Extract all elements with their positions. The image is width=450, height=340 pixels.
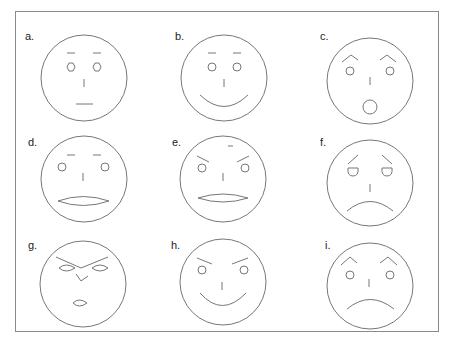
face-c xyxy=(327,38,413,124)
mouth-open-icon xyxy=(363,100,377,114)
nose-icon xyxy=(76,274,88,281)
eye-icon xyxy=(233,63,241,71)
eye-icon xyxy=(346,67,354,75)
face-outline-icon xyxy=(327,140,413,226)
brow-icon xyxy=(237,156,249,162)
eye-lens-icon xyxy=(59,265,75,271)
eye-icon xyxy=(241,164,249,172)
face-a xyxy=(41,35,127,121)
face-h xyxy=(180,239,266,325)
eye-icon xyxy=(386,271,394,279)
face-outline-icon xyxy=(41,136,127,222)
brow-v-icon xyxy=(56,257,108,268)
eye-icon xyxy=(101,163,109,171)
eye-icon xyxy=(346,271,354,279)
face-e xyxy=(180,136,266,222)
face-d xyxy=(41,136,127,222)
faces-diagram xyxy=(0,0,450,340)
eye-icon xyxy=(198,164,206,172)
eye-icon xyxy=(93,63,101,71)
face-i xyxy=(327,243,413,329)
mouth-lens-icon xyxy=(73,300,87,306)
eye-droopy-icon xyxy=(348,168,358,176)
brow-icon xyxy=(197,258,212,264)
eye-icon xyxy=(58,163,66,171)
brow-icon xyxy=(348,155,358,164)
eye-icon xyxy=(198,266,206,274)
eye-icon xyxy=(208,63,216,71)
brow-icon xyxy=(341,257,357,265)
face-outline-icon xyxy=(40,241,126,327)
face-g xyxy=(40,241,126,327)
eye-icon xyxy=(386,67,394,75)
mouth-smile-icon xyxy=(200,293,246,306)
eye-icon xyxy=(240,266,248,274)
mouth-smile-icon xyxy=(200,95,248,107)
eye-lens-icon xyxy=(92,265,108,271)
mouth-oval-icon xyxy=(58,197,109,206)
brow-icon xyxy=(380,55,396,62)
mouth-frown-icon xyxy=(347,300,394,310)
face-outline-icon xyxy=(181,35,267,121)
brow-icon xyxy=(380,257,397,265)
brow-icon xyxy=(197,156,209,162)
brow-icon xyxy=(382,155,392,164)
face-outline-icon xyxy=(180,239,266,325)
face-outline-icon xyxy=(41,35,127,121)
face-b xyxy=(181,35,267,121)
face-f xyxy=(327,140,413,226)
brow-icon xyxy=(342,55,358,62)
face-outline-icon xyxy=(327,243,413,329)
brow-icon xyxy=(232,258,248,264)
eye-droopy-icon xyxy=(382,168,392,176)
mouth-oval-icon xyxy=(198,194,248,202)
mouth-frown-icon xyxy=(347,202,393,212)
eye-icon xyxy=(67,63,75,71)
